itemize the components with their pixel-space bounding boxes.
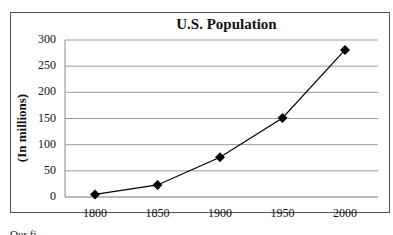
caption-fragment: Our fi bbox=[10, 228, 37, 235]
series-line bbox=[95, 50, 345, 194]
diamond-marker-icon bbox=[90, 189, 100, 199]
diamond-marker-icon bbox=[215, 152, 225, 162]
diamond-marker-icon bbox=[153, 180, 163, 190]
plot-area bbox=[0, 0, 393, 235]
